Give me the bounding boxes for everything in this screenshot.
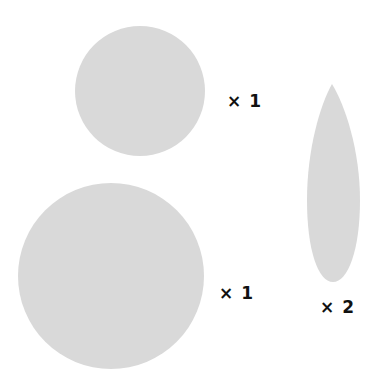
large-circle-shape <box>18 183 204 369</box>
diagram-canvas: × 1 × 1 × 2 <box>0 0 377 372</box>
leaf-ellipse-shape <box>307 84 360 282</box>
large-circle-count-label: × 1 <box>219 285 254 302</box>
small-circle-count-label: × 1 <box>227 93 262 110</box>
leaf-ellipse-count-label: × 2 <box>320 299 355 316</box>
small-circle-shape <box>75 26 205 156</box>
